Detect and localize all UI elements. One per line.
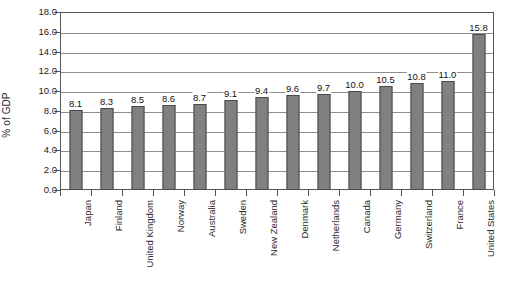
bar[interactable] (69, 110, 82, 190)
x-tick-mark (494, 190, 495, 196)
x-tick-mark (215, 190, 216, 196)
y-tick-label: 16.0 (17, 27, 57, 37)
x-axis-category-label: Denmark (298, 198, 312, 294)
bar[interactable] (255, 97, 268, 190)
y-tick-label: 4.0 (17, 145, 57, 155)
x-axis-category-label: Germany (391, 198, 405, 294)
bar-slot: 10.8 (401, 12, 432, 190)
bar[interactable] (224, 100, 237, 190)
bar[interactable] (193, 104, 206, 190)
x-tick-mark (153, 190, 154, 196)
bar-value-label: 9.4 (254, 85, 269, 96)
bar-slot: 8.1 (60, 12, 91, 190)
bar-slot: 8.3 (91, 12, 122, 190)
bar[interactable] (472, 34, 485, 190)
bar-slot: 15.8 (463, 12, 494, 190)
y-tick-label: 14.0 (17, 47, 57, 57)
x-tick-mark (370, 190, 371, 196)
bar-value-label: 8.6 (161, 93, 176, 104)
bar-value-label: 8.5 (130, 94, 145, 105)
bar-slot: 8.6 (153, 12, 184, 190)
x-axis-category-label: Sweden (236, 198, 250, 294)
bar-value-label: 15.8 (468, 22, 489, 33)
bar-value-label: 11.0 (438, 69, 458, 80)
y-tick-label: 2.0 (17, 165, 57, 175)
bar[interactable] (348, 91, 361, 190)
bar-slot: 8.5 (122, 12, 153, 190)
x-axis-category-label: Netherlands (329, 198, 343, 294)
bar[interactable] (131, 106, 144, 190)
y-axis-title: % of GDP (1, 60, 15, 170)
x-axis-category-label: Switzerland (422, 198, 436, 294)
x-tick-mark (122, 190, 123, 196)
bar-value-label: 9.1 (223, 88, 238, 99)
bar-value-label: 10.5 (375, 74, 396, 85)
bars-layer: 8.18.38.58.68.79.19.49.69.710.010.510.81… (60, 12, 494, 190)
bar-slot: 9.6 (277, 12, 308, 190)
x-axis-category-label: Finland (112, 198, 126, 294)
bar[interactable] (379, 86, 392, 190)
bar[interactable] (410, 83, 423, 190)
x-tick-mark (277, 190, 278, 196)
x-axis-category-label: Japan (81, 198, 95, 294)
x-axis-category-label: United Kingdom (143, 198, 157, 294)
x-tick-mark (432, 190, 433, 196)
x-axis-category-label: France (453, 198, 467, 294)
x-axis-ticks (60, 190, 494, 197)
y-tick-label: 8.0 (17, 106, 57, 116)
bar-value-label: 8.1 (68, 98, 83, 109)
x-axis-category-label: Norway (174, 198, 188, 294)
bar-value-label: 9.6 (285, 83, 300, 94)
bar-slot: 10.0 (339, 12, 370, 190)
x-tick-mark (308, 190, 309, 196)
bar[interactable] (162, 105, 175, 190)
bar-slot: 9.7 (308, 12, 339, 190)
bar-chart-figure: % of GDP 8.18.38.58.68.79.19.49.69.710.0… (0, 0, 516, 305)
bar-slot: 8.7 (184, 12, 215, 190)
y-tick-label: 12.0 (17, 66, 57, 76)
x-axis-category-label: Canada (360, 198, 374, 294)
bar[interactable] (441, 81, 454, 190)
bar-slot: 10.5 (370, 12, 401, 190)
bar-value-label: 10.0 (344, 79, 365, 90)
bar-value-label: 10.8 (406, 71, 427, 82)
x-tick-mark (60, 190, 61, 196)
x-axis-category-label: New Zealand (267, 198, 281, 294)
bar[interactable] (286, 95, 299, 190)
bar[interactable] (317, 94, 330, 190)
bar-slot: 9.4 (246, 12, 277, 190)
x-tick-mark (401, 190, 402, 196)
x-tick-mark (463, 190, 464, 196)
y-tick-label: 6.0 (17, 126, 57, 136)
bar-value-label: 9.7 (316, 82, 331, 93)
bar[interactable] (100, 108, 113, 190)
x-tick-mark (184, 190, 185, 196)
x-axis-category-label: Australia (205, 198, 219, 294)
x-tick-mark (91, 190, 92, 196)
x-tick-mark (339, 190, 340, 196)
x-tick-mark (246, 190, 247, 196)
x-axis-category-label: United States (484, 198, 498, 294)
bar-slot: 9.1 (215, 12, 246, 190)
y-tick-label: 10.0 (17, 86, 57, 96)
bar-value-label: 8.3 (99, 96, 114, 107)
x-axis-labels: JapanFinlandUnited KingdomNorwayAustrali… (60, 198, 494, 298)
y-tick-label: 0.0 (17, 185, 57, 195)
y-tick-label: 18.0 (17, 7, 57, 17)
bar-slot: 11.0 (432, 12, 463, 190)
bar-value-label: 8.7 (192, 92, 207, 103)
